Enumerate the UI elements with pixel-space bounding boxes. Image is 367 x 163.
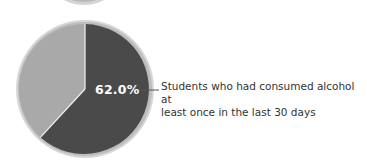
partial-pie-top [46, 0, 122, 5]
slice-percent-label: 62.0% [95, 82, 139, 97]
description-line-1: Students who had consumed alcohol at [161, 80, 366, 106]
description-line-2: least once in the last 30 days [161, 106, 366, 119]
slice-description-label: Students who had consumed alcohol at lea… [161, 80, 366, 119]
